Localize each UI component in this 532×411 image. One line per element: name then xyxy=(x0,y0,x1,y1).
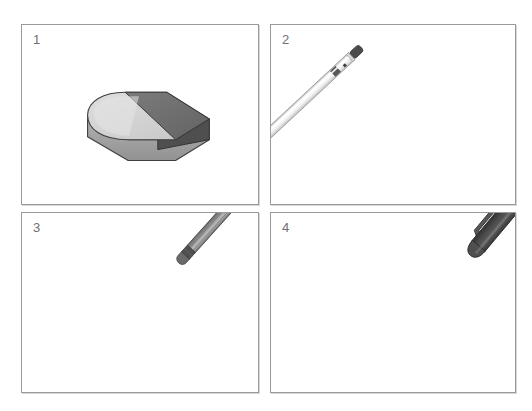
eraser-body xyxy=(88,92,210,160)
panel-3-pencil[interactable]: 3 xyxy=(21,212,259,393)
panel-2-mechanical-pencil[interactable]: 2 xyxy=(270,24,516,205)
panel-4-ballpoint-pen[interactable]: 4 xyxy=(270,212,516,393)
eraser-illustration xyxy=(22,25,258,204)
mechanical-pencil-body xyxy=(271,44,364,164)
pen-body xyxy=(460,213,515,261)
panel-1-eraser[interactable]: 1 xyxy=(21,24,259,205)
pencil-illustration xyxy=(22,213,258,392)
pencil-body xyxy=(175,213,258,267)
pen-illustration xyxy=(271,213,515,392)
mechanical-pencil-illustration xyxy=(271,25,515,204)
worksheet-sheet: 1 xyxy=(0,0,532,411)
